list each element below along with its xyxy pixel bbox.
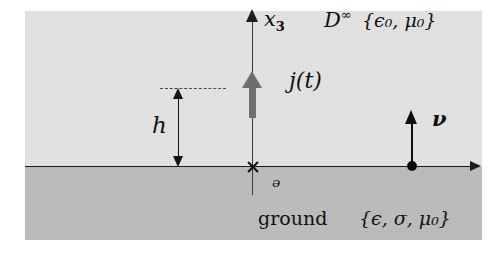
origin-cross-marker-icon: [246, 160, 260, 174]
figure-canvas: x3 D∞ {ϵ₀, μ₀} j(t) h ᵊ ν ground {ϵ, σ, …: [0, 0, 501, 258]
normal-vector-label: ν: [432, 108, 447, 129]
ground-region-label: ground: [258, 209, 327, 228]
source-height-label: h: [152, 114, 167, 137]
ground-medium-parameters: {ϵ, σ, μ₀}: [359, 209, 451, 228]
upper-domain-superscript: ∞: [341, 7, 352, 22]
normal-vector-arrowhead-icon: [405, 110, 417, 124]
half-space-figure: [25, 11, 482, 240]
upper-medium-parameters: {ϵ₀, μ₀}: [362, 11, 436, 30]
source-arrow-head-icon: [242, 71, 262, 88]
source-current-label: j(t): [289, 70, 322, 92]
ground-half-space-region: [25, 167, 482, 240]
vertical-axis-label-subscript: 3: [276, 19, 285, 34]
vertical-axis-label: x3: [264, 9, 285, 33]
height-dimension-arrowhead-up-icon: [173, 88, 183, 99]
upper-domain-symbol: D∞: [324, 8, 352, 31]
origin-label: ᵊ: [272, 176, 281, 198]
vertical-axis-label-text: x: [264, 7, 276, 31]
vertical-axis-arrowhead-icon: [246, 9, 258, 22]
upper-domain-symbol-text: D: [324, 8, 341, 32]
source-arrow-shaft-icon: [249, 85, 256, 118]
height-dimension-shaft-icon: [178, 92, 179, 163]
normal-vector-shaft-icon: [411, 122, 413, 166]
horizontal-axis-arrowhead-icon: [470, 161, 481, 171]
source-height-leader-line: [160, 88, 226, 89]
height-dimension-arrowhead-down-icon: [173, 156, 183, 167]
